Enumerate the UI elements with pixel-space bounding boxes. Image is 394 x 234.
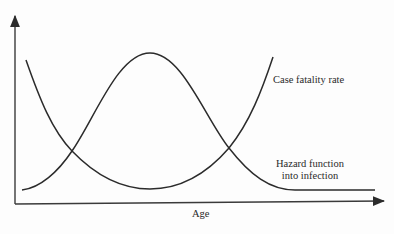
case-fatality-curve <box>26 57 273 189</box>
case-fatality-label: Case fatality rate <box>273 74 344 86</box>
hazard-function-label-line2: into infection <box>270 170 350 182</box>
diagram-canvas: Case fatality rate Hazard function into … <box>0 0 394 234</box>
x-axis <box>15 201 384 204</box>
hazard-function-label-line1: Hazard function <box>270 158 350 170</box>
hazard-function-label: Hazard function into infection <box>270 158 350 182</box>
plot-area <box>0 0 394 234</box>
x-axis-label: Age <box>192 208 210 220</box>
